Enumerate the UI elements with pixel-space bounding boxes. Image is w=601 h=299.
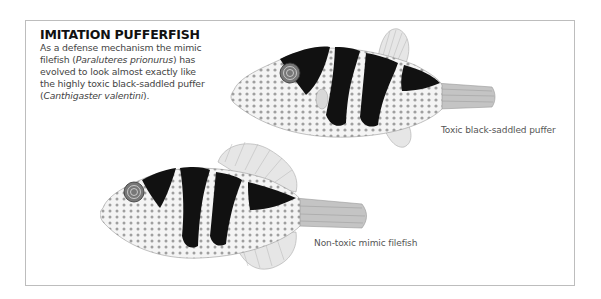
description: As a defense mechanism the mimic filefis… bbox=[40, 42, 210, 102]
mimic-filefish-illustration bbox=[100, 136, 370, 281]
page-title: IMITATION PUFFERFISH bbox=[40, 27, 200, 42]
toxic-puffer-label: Toxic black-saddled puffer bbox=[441, 125, 556, 135]
mimic-filefish-label: Non-toxic mimic filefish bbox=[314, 238, 417, 248]
